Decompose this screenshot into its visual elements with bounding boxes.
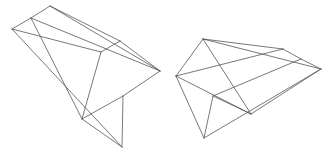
- edge-G-I: [122, 96, 123, 147]
- edge-S-T: [301, 59, 321, 69]
- right-polyhedron: [176, 39, 321, 138]
- edge-B-C: [12, 18, 31, 29]
- left-polyhedron: [12, 6, 160, 147]
- edge-C-D: [12, 29, 101, 52]
- edge-A-E: [50, 6, 120, 41]
- edge-F-G: [123, 71, 160, 96]
- edge-Q-W: [176, 76, 204, 138]
- edge-V-W: [204, 96, 213, 138]
- edge-W-T: [204, 69, 321, 138]
- edge-B-F: [31, 18, 160, 71]
- edge-G-H: [82, 96, 123, 119]
- edge-E-F: [120, 41, 160, 71]
- wireframe-diagram: [0, 0, 330, 157]
- edge-A-F: [50, 6, 160, 71]
- edge-P-R: [203, 39, 283, 49]
- edge-Q-R: [176, 49, 283, 76]
- edge-D-H: [82, 52, 101, 119]
- edge-H-I: [82, 119, 122, 147]
- edge-A-B: [31, 6, 50, 18]
- edge-C-I: [12, 29, 122, 147]
- edge-R-S: [283, 49, 301, 59]
- edge-B-H: [31, 18, 82, 119]
